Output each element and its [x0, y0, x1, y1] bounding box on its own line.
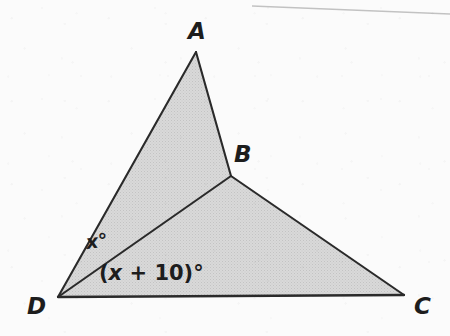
vertex-label-c: C: [414, 295, 431, 318]
vertex-label-b: B: [234, 143, 252, 166]
angle-bdc-close-degree: )°: [184, 261, 204, 285]
angle-bdc-variable: x: [109, 261, 123, 285]
angle-bdc-open-paren: (: [99, 261, 109, 285]
angle-bdc-constant: 10: [154, 261, 183, 285]
vertex-label-a: A: [188, 20, 206, 43]
vertex-label-d: D: [27, 295, 46, 318]
geometry-diagram: [0, 0, 450, 336]
angle-label-adb: x°: [85, 230, 109, 252]
figure-canvas: A B C D x° (x + 10)°: [0, 0, 450, 336]
scan-edge-line: [252, 6, 450, 14]
angle-bdc-operator: +: [122, 261, 154, 285]
angle-label-bdc: (x + 10)°: [99, 263, 204, 284]
